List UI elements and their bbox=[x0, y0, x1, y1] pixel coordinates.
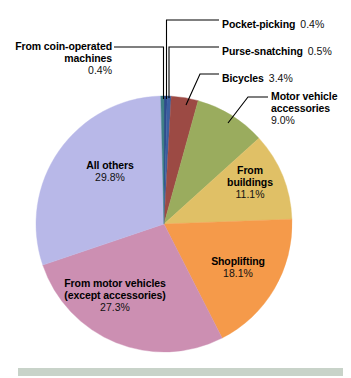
label-from-buildings-value: 11.1% bbox=[205, 189, 295, 201]
label-from-buildings-line1: From bbox=[205, 165, 295, 177]
pie-chart-figure: Pocket-picking0.4% Purse-snatching0.5% B… bbox=[0, 0, 351, 378]
label-coin-operated-machines: From coin-operated machines 0.4% bbox=[0, 41, 112, 76]
label-pocket-picking: Pocket-picking0.4% bbox=[222, 14, 324, 32]
label-from-motor-vehicles-line2: (except accessories) bbox=[40, 290, 190, 302]
label-motor-vehicle-accessories-line2: accessories bbox=[271, 103, 337, 115]
label-coin-operated-machines-value: 0.4% bbox=[0, 65, 112, 77]
label-all-others-value: 29.8% bbox=[60, 172, 160, 184]
label-pocket-picking-name: Pocket-picking bbox=[222, 18, 295, 30]
label-bicycles: Bicycles3.4% bbox=[222, 68, 293, 86]
label-from-buildings-line2: buildings bbox=[205, 177, 295, 189]
label-purse-snatching-name: Purse-snatching bbox=[222, 45, 303, 57]
label-bicycles-value: 3.4% bbox=[269, 72, 293, 84]
label-purse-snatching: Purse-snatching0.5% bbox=[222, 41, 332, 59]
label-shoplifting: Shoplifting 18.1% bbox=[188, 256, 288, 280]
pie-slice-group bbox=[36, 96, 292, 352]
label-coin-operated-machines-line2: machines bbox=[0, 53, 112, 65]
label-shoplifting-name: Shoplifting bbox=[188, 256, 288, 268]
label-coin-operated-machines-line1: From coin-operated bbox=[0, 41, 112, 53]
label-all-others: All others 29.8% bbox=[60, 160, 160, 184]
label-motor-vehicle-accessories-value: 9.0% bbox=[271, 115, 337, 127]
leader-line-purse-snatching bbox=[169, 47, 219, 98]
leader-line-pocket-picking bbox=[167, 20, 220, 99]
label-from-motor-vehicles-line1: From motor vehicles bbox=[40, 278, 190, 290]
leader-line-coin-operated-machines bbox=[114, 47, 164, 99]
label-bicycles-name: Bicycles bbox=[222, 72, 264, 84]
label-shoplifting-value: 18.1% bbox=[188, 268, 288, 280]
label-all-others-name: All others bbox=[60, 160, 160, 172]
label-from-buildings: From buildings 11.1% bbox=[205, 165, 295, 200]
label-pocket-picking-value: 0.4% bbox=[300, 18, 324, 30]
label-motor-vehicle-accessories: Motor vehicle accessories 9.0% bbox=[271, 91, 337, 126]
label-motor-vehicle-accessories-line1: Motor vehicle bbox=[271, 91, 337, 103]
label-from-motor-vehicles-value: 27.3% bbox=[40, 302, 190, 314]
label-from-motor-vehicles: From motor vehicles (except accessories)… bbox=[40, 278, 190, 313]
label-purse-snatching-value: 0.5% bbox=[308, 45, 332, 57]
bottom-decorative-bar bbox=[18, 368, 343, 376]
